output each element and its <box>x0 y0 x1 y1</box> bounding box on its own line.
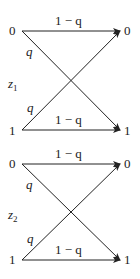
edge-label-1-1: 1 − q <box>55 242 82 257</box>
input-label-1: 1 <box>9 123 16 138</box>
channel-name-z1: z1 <box>7 76 18 93</box>
edge-label-0-1: q <box>26 177 33 192</box>
input-label-0: 0 <box>9 23 16 38</box>
output-label-0: 0 <box>124 156 131 171</box>
channel-z1: 0 1 0 1 1 − q q q 1 − q z1 <box>7 13 131 138</box>
input-label-1: 1 <box>9 252 16 267</box>
edge-label-1-0: q <box>27 231 34 246</box>
input-label-0: 0 <box>9 156 16 171</box>
edge-label-1-0: q <box>27 100 34 115</box>
channel-name-z2: z2 <box>7 207 18 224</box>
edge-label-1-1: 1 − q <box>55 112 82 127</box>
bsc-diagram: 0 1 0 1 1 − q q q 1 − q z1 0 1 0 1 1 − q… <box>0 0 140 279</box>
channel-z2: 0 1 0 1 1 − q q q 1 − q z2 <box>7 146 131 267</box>
output-label-1: 1 <box>124 123 131 138</box>
output-label-0: 0 <box>124 23 131 38</box>
output-label-1: 1 <box>124 252 131 267</box>
edge-label-0-1: q <box>26 44 33 59</box>
edge-label-0-0: 1 − q <box>55 13 82 28</box>
edge-label-0-0: 1 − q <box>55 146 82 161</box>
